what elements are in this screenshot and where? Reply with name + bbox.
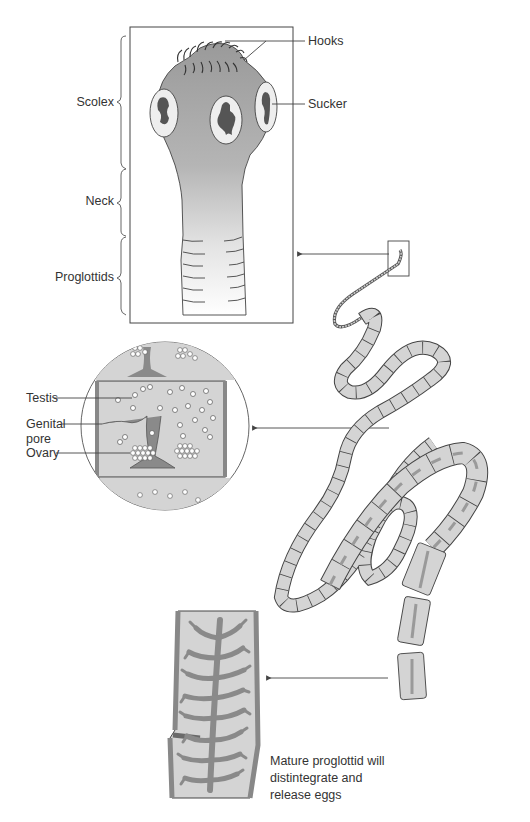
label-proglottids: Proglottids [40, 270, 114, 285]
sucker-left-icon [150, 89, 178, 137]
whole-tapeworm [281, 241, 477, 700]
label-hooks: Hooks [308, 34, 343, 49]
sucker-right-icon [255, 82, 277, 132]
scolex-inset-frame [388, 241, 409, 276]
section-brackets [117, 36, 126, 315]
label-testis: Testis [26, 391, 58, 406]
scolex-panel [117, 27, 305, 323]
scolex-body [158, 44, 271, 316]
sucker-center-icon [210, 96, 242, 144]
proglottid-detail [54, 340, 260, 518]
label-genital-pore: Genital pore [26, 417, 66, 447]
detached-proglottids [397, 542, 446, 700]
mature-proglottid [170, 611, 258, 798]
tapeworm-diagram [0, 0, 530, 822]
label-ovary: Ovary [26, 446, 59, 461]
label-scolex: Scolex [58, 95, 114, 110]
label-neck: Neck [58, 194, 114, 209]
label-sucker: Sucker [308, 97, 347, 112]
mature-proglottid-caption: Mature proglottid will distintegrate and… [270, 753, 430, 804]
